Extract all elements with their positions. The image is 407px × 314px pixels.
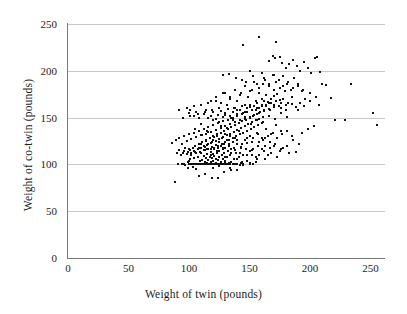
data-point — [372, 112, 374, 114]
data-point — [239, 119, 241, 121]
data-point — [211, 157, 213, 159]
data-point — [227, 108, 229, 110]
data-point — [189, 149, 191, 151]
data-point — [247, 96, 249, 98]
data-point — [215, 129, 217, 131]
data-point — [226, 134, 228, 136]
data-point — [222, 92, 224, 94]
data-point — [182, 152, 184, 154]
data-point — [250, 123, 252, 125]
data-point — [215, 118, 217, 120]
data-point — [229, 133, 231, 135]
data-point — [257, 145, 259, 147]
data-point — [265, 94, 267, 96]
data-point — [227, 119, 229, 121]
data-point — [249, 104, 251, 106]
data-point — [265, 105, 267, 107]
data-point — [200, 123, 202, 125]
data-point — [224, 114, 226, 116]
data-point — [180, 154, 182, 156]
data-point — [284, 90, 286, 92]
data-point — [203, 113, 205, 115]
x-axis-title: Weight of twin (pounds) — [0, 288, 407, 300]
data-point — [281, 133, 283, 135]
data-point — [292, 87, 294, 89]
data-point — [212, 124, 214, 126]
data-point — [228, 73, 230, 75]
data-point — [325, 84, 327, 86]
data-point — [218, 165, 220, 167]
data-point — [244, 118, 246, 120]
data-point — [242, 112, 244, 114]
data-point — [190, 154, 192, 156]
data-point — [194, 145, 196, 147]
data-point — [276, 93, 278, 95]
data-point — [251, 141, 253, 143]
data-point — [282, 98, 284, 100]
data-point — [236, 115, 238, 117]
data-point — [223, 152, 225, 154]
data-point — [256, 102, 258, 104]
data-point — [222, 116, 224, 118]
data-point — [216, 150, 218, 152]
data-point — [206, 148, 208, 150]
data-point — [269, 147, 271, 149]
data-point — [249, 70, 251, 72]
gridline-y-250 — [68, 24, 385, 25]
data-point — [213, 147, 215, 149]
data-point — [197, 156, 199, 158]
x-tick-label-50: 50 — [109, 262, 149, 274]
data-point — [296, 65, 298, 67]
gridline-y-200 — [68, 71, 385, 72]
data-point — [207, 143, 209, 145]
data-point — [215, 140, 217, 142]
data-point — [286, 116, 288, 118]
x-tick-label-250: 250 — [351, 262, 391, 274]
data-point — [315, 96, 317, 98]
data-point — [235, 135, 237, 137]
data-point — [285, 109, 287, 111]
data-point — [273, 95, 275, 97]
data-point — [246, 130, 248, 132]
data-point — [257, 124, 259, 126]
data-point — [198, 130, 200, 132]
data-point — [236, 143, 238, 145]
data-point — [255, 161, 257, 163]
data-point — [270, 152, 272, 154]
data-point — [286, 83, 288, 85]
data-point — [205, 139, 207, 141]
data-point — [282, 75, 284, 77]
data-point — [244, 104, 246, 106]
data-point — [203, 128, 205, 130]
data-point — [255, 156, 257, 158]
data-point — [234, 121, 236, 123]
data-point — [246, 142, 248, 144]
data-point — [206, 130, 208, 132]
data-point — [295, 106, 297, 108]
data-point — [321, 83, 323, 85]
data-point — [334, 119, 336, 121]
data-point — [211, 141, 213, 143]
data-point — [209, 137, 211, 139]
data-point — [253, 105, 255, 107]
x-tick-label-150: 150 — [230, 262, 270, 274]
data-point — [192, 147, 194, 149]
data-point — [286, 145, 288, 147]
data-point — [251, 109, 253, 111]
data-point — [229, 123, 231, 125]
data-point — [280, 130, 282, 132]
data-point — [279, 150, 281, 152]
data-point — [249, 106, 251, 108]
data-point — [233, 131, 235, 133]
data-point — [230, 126, 232, 128]
data-point — [252, 163, 254, 165]
data-point — [275, 41, 277, 43]
data-point — [291, 96, 293, 98]
data-point — [258, 112, 260, 114]
data-point — [212, 167, 214, 169]
data-point — [269, 109, 271, 111]
data-point — [256, 158, 258, 160]
data-point — [268, 85, 270, 87]
data-point — [230, 117, 232, 119]
data-point — [183, 150, 185, 152]
